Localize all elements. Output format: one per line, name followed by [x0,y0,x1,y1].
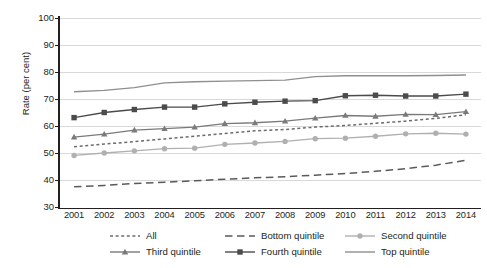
legend-label: All [146,230,157,242]
legend-item-all[interactable]: All [110,228,157,244]
data-point-square [313,98,318,103]
x-tick-label: 2014 [448,210,484,220]
data-point-square [433,93,438,98]
legend-label: Fourth quintile [261,246,322,258]
legend-swatch-icon [225,246,255,258]
data-point-circle [222,142,227,147]
legend-swatch-icon [345,246,375,258]
data-point-square [71,115,76,120]
chart-legend: AllBottom quintileSecond quintileThird q… [0,228,487,264]
legend-swatch-icon [225,230,255,242]
data-point-circle [373,134,378,139]
y-tick-label: 40 [24,175,54,185]
series-top-quintile [74,75,466,92]
data-point-square [343,93,348,98]
legend-label: Top quintile [381,246,430,258]
y-tick-label: 70 [24,94,54,104]
y-tick-label: 60 [24,121,54,131]
series-line [74,75,466,92]
data-point-circle [433,131,438,136]
legend-label: Bottom quintile [261,230,324,242]
series-second-quintile [71,131,468,159]
y-tick-label: 90 [24,40,54,50]
data-point-square [222,101,227,106]
data-point-circle [403,131,408,136]
data-point-square [102,110,107,115]
data-point-square [373,93,378,98]
data-point-square [463,91,468,96]
data-point-circle [252,140,257,145]
y-tick-label: 100 [24,13,54,23]
x-axis-line [58,208,481,210]
legend-label: Second quintile [381,230,447,242]
data-point-square [237,249,242,254]
y-tick-label: 50 [24,148,54,158]
data-point-circle [192,145,197,150]
data-point-circle [357,233,362,238]
line-chart: Rate (per cent) 30405060708090100 200120… [0,0,487,268]
data-point-circle [343,135,348,140]
data-point-circle [71,153,76,158]
series-line [74,160,466,186]
series-third-quintile [71,108,469,139]
legend-item-third-quintile[interactable]: Third quintile [110,244,201,260]
data-point-square [403,93,408,98]
series-bottom-quintile [74,160,466,186]
data-point-circle [282,139,287,144]
legend-swatch-icon [110,230,140,242]
y-tick-label: 80 [24,67,54,77]
legend-swatch-icon [110,246,140,258]
series-fourth-quintile [71,91,468,120]
data-point-square [162,104,167,109]
data-point-circle [102,150,107,155]
legend-item-bottom-quintile[interactable]: Bottom quintile [225,228,324,244]
data-point-square [192,104,197,109]
data-point-circle [463,131,468,136]
legend-item-fourth-quintile[interactable]: Fourth quintile [225,244,322,260]
legend-label: Third quintile [146,246,201,258]
data-point-circle [132,148,137,153]
legend-item-top-quintile[interactable]: Top quintile [345,244,430,260]
data-point-square [132,107,137,112]
legend-item-second-quintile[interactable]: Second quintile [345,228,447,244]
data-point-square [252,100,257,105]
data-point-circle [162,146,167,151]
y-tick-label: 30 [24,202,54,212]
legend-swatch-icon [345,230,375,242]
series-plot-area [59,18,481,207]
data-point-circle [313,136,318,141]
data-point-square [282,98,287,103]
